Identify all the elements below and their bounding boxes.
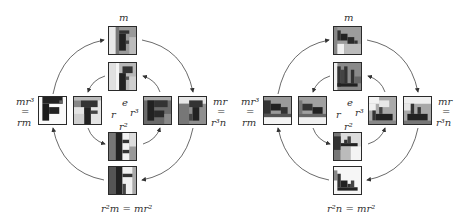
label-bottom: r²m = mr² [101,204,152,214]
outer-arrow-bottom-to-left [53,128,104,180]
label-center-e: e [122,98,128,108]
inner-arrow-left-to-bottom [313,128,330,144]
tile-mr [178,96,207,125]
tile-r3 [368,96,397,125]
tile-m [333,26,362,55]
label-left-bot: rm [17,118,31,128]
tile-r2 [108,132,137,161]
tile-mr3 [263,96,292,125]
outer-arrow-right-to-bottom [142,128,193,180]
label-center-r3: r³ [355,108,364,118]
tile-r3 [143,96,172,125]
tile-r [298,96,327,125]
inner-arrow-bottom-to-right [368,128,385,144]
tile-e [108,62,137,91]
tile-r2 [333,132,362,161]
label-center-r2: r² [119,122,128,132]
label-center-r: r [111,110,116,120]
tile-mr [403,96,432,125]
label-top: m [344,13,353,23]
tile-r2n [333,166,362,195]
outer-arrow-right-to-bottom [367,128,418,180]
inner-arrow-right-to-top [368,76,385,92]
label-center-r3: r³ [130,108,139,118]
outer-arrow-top-to-right [142,40,193,92]
tile-r [73,96,102,125]
label-center-r2: r² [344,122,353,132]
right-group-diagram: m mr³ = rm e r r³ mr = r³n r² r²n = mr² [232,0,463,222]
tile-r2m [108,166,137,195]
label-center-e: e [347,98,353,108]
label-left-bot: rm [242,118,256,128]
outer-arrow-bottom-to-left [278,128,329,180]
left-group-diagram: m mr³ = rm e r r³ mr = r³n r² r²m = mr² [0,0,231,222]
inner-arrow-top-to-left [88,76,105,92]
label-right-bot: r³n [436,118,451,128]
label-right-mid: = [217,107,225,117]
inner-arrow-left-to-bottom [88,128,105,144]
tile-m [108,26,137,55]
outer-arrow-left-to-top [278,40,329,94]
label-right-bot: r³n [211,118,226,128]
inner-arrow-right-to-top [143,76,160,92]
tile-mr3 [38,96,67,125]
inner-arrow-bottom-to-right [143,128,160,144]
label-top: m [119,13,128,23]
tile-e [333,62,362,91]
label-bottom: r²n = mr² [327,204,375,214]
label-left-mid: = [246,107,254,117]
label-left-mid: = [21,107,29,117]
outer-arrow-top-to-right [367,40,418,92]
label-center-r: r [336,110,341,120]
inner-arrow-top-to-left [313,76,330,92]
label-right-mid: = [442,107,450,117]
outer-arrow-left-to-top [53,40,104,94]
